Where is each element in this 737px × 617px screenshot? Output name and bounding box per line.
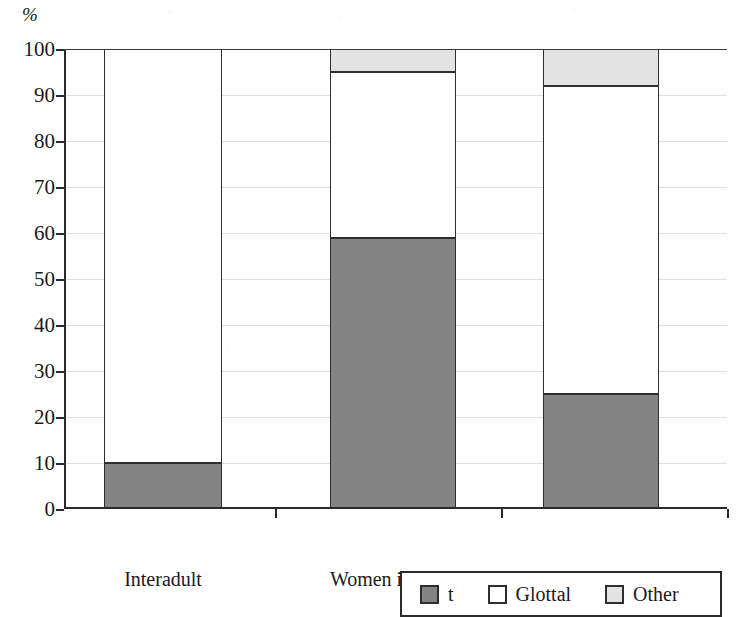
y-axis-tick-label: 0 (45, 499, 56, 520)
y-axis-tick-mark (56, 325, 64, 327)
x-axis-category-label: Interadult (124, 569, 202, 589)
legend-item-glottal[interactable]: Glottal (488, 584, 572, 604)
y-axis-tick-mark (56, 371, 64, 373)
x-axis-tick-mark (727, 509, 729, 518)
plot-area: 0102030405060708090100 InteradultWomen i… (64, 49, 727, 509)
y-axis-tick-mark (56, 509, 64, 511)
y-axis-tick-label: 90 (34, 85, 55, 106)
x-axis-tick-mark (501, 509, 503, 518)
x-axis-tick-mark (275, 509, 277, 518)
y-axis-tick-mark (56, 417, 64, 419)
y-axis-tick-mark (56, 49, 64, 51)
light-gray-swatch (605, 585, 624, 604)
y-axis-tick-mark (56, 187, 64, 189)
y-axis-tick-label: 10 (34, 453, 55, 474)
y-axis-tick-label: 20 (34, 407, 55, 428)
plot-top-border (64, 49, 727, 50)
y-axis-tick-label: 80 (34, 131, 55, 152)
legend-item-t[interactable]: t (420, 584, 454, 604)
y-axis-tick-label: 70 (34, 177, 55, 198)
white-swatch (488, 585, 507, 604)
chart-legend: tGlottalOther (400, 571, 722, 617)
y-axis-tick-mark (56, 463, 64, 465)
y-axis-tick-label: 60 (34, 223, 55, 244)
y-axis-unit-label: % (22, 4, 38, 26)
dark-gray-swatch (420, 585, 439, 604)
y-axis-tick-label: 40 (34, 315, 55, 336)
y-axis-tick-mark (56, 233, 64, 235)
y-axis-tick-mark (56, 95, 64, 97)
y-axis-tick-mark (56, 141, 64, 143)
plot-frame (64, 49, 727, 509)
legend-item-label: t (448, 584, 454, 604)
legend-item-other[interactable]: Other (605, 584, 679, 604)
y-axis-tick-label: 100 (24, 39, 56, 60)
y-axis-tick-label: 50 (34, 269, 55, 290)
legend-item-label: Other (633, 584, 679, 604)
y-axis-tick-mark (56, 279, 64, 281)
legend-item-label: Glottal (516, 584, 572, 604)
y-axis-tick-label: 30 (34, 361, 55, 382)
